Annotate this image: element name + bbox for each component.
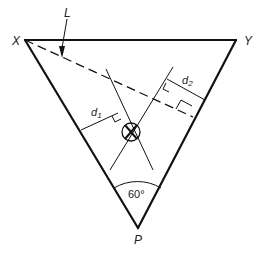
dashed-line-l [25, 40, 193, 117]
crossing-lines [106, 67, 173, 170]
right-angle-marker-d1 [112, 116, 121, 122]
angle-label-60: 60° [128, 188, 145, 200]
distance-label-d1: d1 [91, 106, 102, 120]
vertex-label-x: X [11, 34, 21, 48]
perpendicular-line-2 [110, 67, 173, 170]
side-xp [25, 40, 138, 228]
right-angle-marker-l [176, 100, 192, 109]
vertex-label-p: P [134, 233, 142, 247]
side-yp [138, 40, 236, 228]
center-circle-marker [122, 123, 140, 141]
triangle-diagram: X Y P L d1 d2 60° [0, 0, 264, 253]
distance-label-d2: d2 [182, 74, 193, 88]
line-label-l: L [64, 6, 71, 20]
l-pointer-arrow [59, 19, 67, 58]
vertex-label-y: Y [244, 34, 253, 48]
perpendicular-line-1 [106, 69, 153, 170]
arrowhead-icon [59, 46, 65, 58]
right-angle-marker-d2 [163, 83, 169, 92]
